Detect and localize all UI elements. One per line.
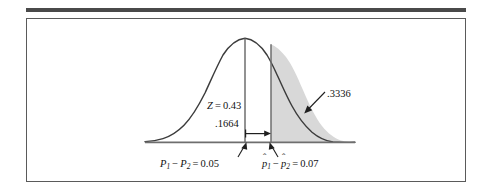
population-parameter-label: P1 − P2 = 0.05 [160,159,219,170]
z-value-label: Z = 0.43 [207,101,241,112]
sample-statistic-label: ˆp1 − ˆp2 = 0.07 [262,159,319,170]
statistic-symbol-2: ˆp [281,159,286,170]
normal-curve [145,38,355,142]
figure-root: Z = 0.43 .1664 .3336 P1 − P2 = 0.05 ˆp1 … [0,0,492,195]
tail-area-label: .3336 [327,89,351,100]
parameter-value: 0.05 [201,158,219,169]
parameter-equals: = [190,158,200,169]
parameter-minus: − [170,158,180,169]
hat-accent-1: ˆ [263,153,266,163]
parameter-arrow-head [241,142,247,150]
center-area-label: .1664 [215,119,239,130]
statistic-minus: − [271,158,281,169]
hat-accent-2: ˆ [282,153,285,163]
statistic-equals: = [290,158,300,169]
statistic-value: 0.07 [300,158,318,169]
tail-area-leader-line [308,92,326,110]
interval-arrow-head [264,131,271,137]
statistic-symbol-1: ˆp [262,159,267,170]
distribution-plot [0,0,492,195]
z-number: 0.43 [223,100,241,111]
z-equals: = [213,100,223,111]
statistic-arrow-head [269,142,275,150]
